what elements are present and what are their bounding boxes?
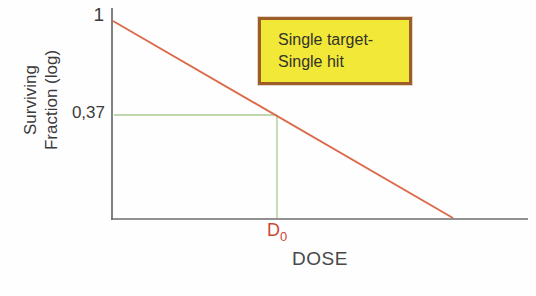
y-tick-1: 1 [84,4,104,26]
y-axis-label: Surviving Fraction (log) [20,35,64,165]
legend-box: Single target- Single hit [258,17,412,85]
x-tick-d0: D0 [267,220,287,241]
survival-curve-figure: 1 0,37 Surviving Fraction (log) Single t… [0,0,536,296]
x-tick-d0-base: D [267,220,280,240]
legend-box-line1: Single target- [278,29,409,51]
legend-box-line2: Single hit [278,51,409,73]
y-axis-label-line2: Fraction (log) [41,35,62,165]
x-axis-label: DOSE [292,248,348,270]
x-tick-d0-subscript: 0 [280,229,287,244]
y-axis-label-line1: Surviving [20,35,41,165]
